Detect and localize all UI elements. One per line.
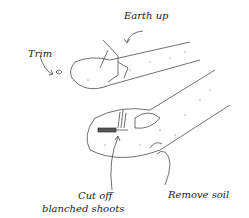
label-blanched-shoots: blanched shoots xyxy=(42,203,124,214)
label-cut-off: Cut off xyxy=(78,190,112,201)
trench-illustration xyxy=(0,0,249,218)
label-remove-soil: Remove soil xyxy=(168,189,229,200)
label-trim: Trim xyxy=(28,48,52,59)
label-earth-up: Earth up xyxy=(124,10,169,21)
diagram-canvas: Earth up Trim Cut off blanched shoots Re… xyxy=(0,0,249,218)
